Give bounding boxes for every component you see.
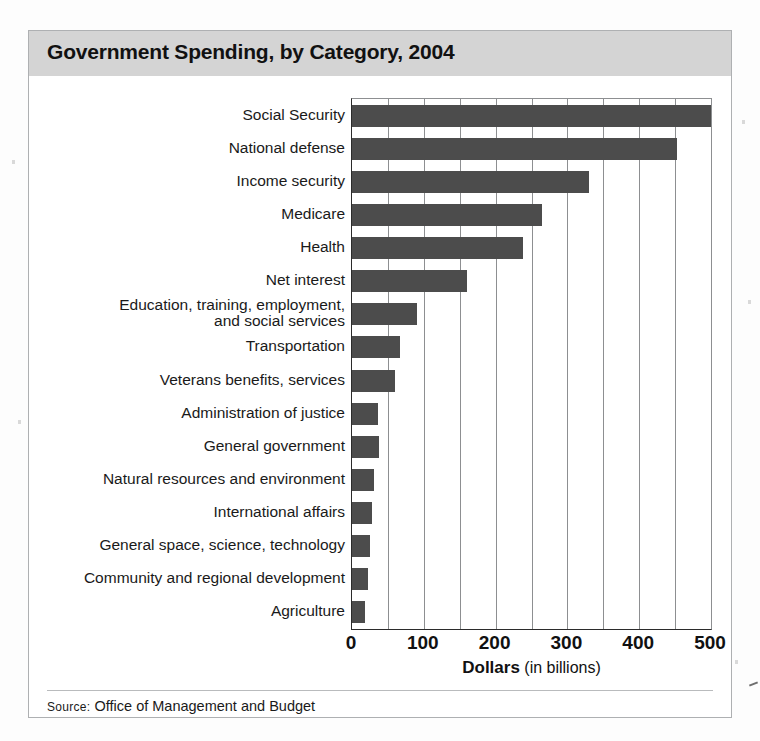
figure-frame: Government Spending, by Category, 2004 S… [28,30,732,718]
x-tick-label: 0 [346,632,357,654]
category-label: International affairs [35,504,345,520]
x-tick-label: 200 [479,632,511,654]
scan-speck [748,300,751,304]
chart-container: Social SecurityNational defenseIncome se… [29,76,731,718]
bar [352,138,677,160]
source-note: Source: Office of Management and Budget [47,698,315,714]
category-label: Natural resources and environment [35,471,345,487]
bar [352,336,400,358]
x-tick-label: 500 [694,632,726,654]
category-axis-labels: Social SecurityNational defenseIncome se… [35,98,345,630]
bar [352,270,467,292]
category-label: General space, science, technology [35,537,345,553]
category-label: General government [35,438,345,454]
gridline [711,99,712,629]
page-title: Government Spending, by Category, 2004 [47,40,454,64]
bar [352,601,365,623]
category-label: Community and regional development [35,570,345,586]
bar [352,204,542,226]
gridline [639,99,640,629]
x-tick-label: 300 [551,632,583,654]
x-axis-tick-labels: 0100200300400500 [351,632,712,658]
source-value: Office of Management and Budget [95,698,316,714]
x-axis-title-units: (in billions) [524,659,600,676]
x-axis-title: Dollars (in billions) [351,658,712,678]
scan-speck [735,660,738,664]
title-band: Government Spending, by Category, 2004 [29,31,731,76]
bar [352,568,368,590]
category-label: Net interest [35,272,345,288]
x-axis-title-bold: Dollars [462,658,520,677]
category-label: Transportation [35,338,345,354]
x-tick-label: 400 [622,632,654,654]
gridline [603,99,604,629]
source-label: Source: [47,700,90,714]
category-label: Health [35,239,345,255]
plot-area [351,98,712,630]
category-label: National defense [35,140,345,156]
scan-speck [742,120,745,124]
bar [352,105,711,127]
category-label: Social Security [35,107,345,123]
scan-speck [18,420,21,424]
gridline [675,99,676,629]
category-label: Administration of justice [35,405,345,421]
bar [352,436,379,458]
bar [352,237,523,259]
bar [352,535,370,557]
category-label: Medicare [35,206,345,222]
category-label: Education, training, employment, and soc… [35,297,345,329]
category-label: Veterans benefits, services [35,372,345,388]
bar [352,370,395,392]
x-tick-label: 100 [407,632,439,654]
category-label: Agriculture [35,603,345,619]
category-label: Income security [35,173,345,189]
bar [352,171,589,193]
bar [352,469,374,491]
bar [352,403,378,425]
scan-speck [12,160,15,164]
bar [352,303,417,325]
bar [352,502,372,524]
source-divider [47,690,713,691]
